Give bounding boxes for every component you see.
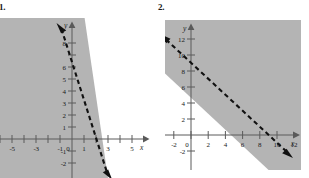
x-tick-label: 8 [258,141,262,149]
y-tick-label: 4 [63,88,67,96]
y-tick-label: 6 [63,64,67,72]
x-tick-label: 6 [241,141,245,149]
y-tick-label: 6 [182,84,186,92]
x-tick-label: 10 [274,141,282,149]
y-tick-label: 1 [63,124,67,132]
graph-2-svg: -2 0 2 4 6 8 10 12 2 4 6 8 10 12 -2 x y [165,20,301,170]
x-tick-label: 5 [130,145,134,153]
x-tick-label: 0 [66,145,70,153]
y-tick-label: 8 [182,68,186,76]
x-tick-label: -3 [33,145,39,153]
graph-1-svg: -5 -3 -1 0 1 3 5 1 2 3 4 5 6 8 -1 -2 x y [0,18,150,178]
y-tick-label: 8 [63,40,67,48]
problem-1-graph: -5 -3 -1 0 1 3 5 1 2 3 4 5 6 8 -1 -2 x y [0,18,150,178]
y-tick-label: -2 [180,148,186,156]
x-tick-label: 4 [224,141,228,149]
problem-2-number: 2. [158,2,164,12]
y-tick-label: 3 [63,100,67,108]
shaded-region-1 [0,18,108,178]
problem-1-number: 1. [0,2,5,12]
x-tick-label: 3 [106,145,110,153]
y-tick-label: 10 [178,52,186,60]
figure-sheet: 1. [0,0,309,178]
problem-1-panel: 1. [0,0,155,178]
y-tick-label: -1 [61,148,67,156]
y-tick-label: 2 [182,116,186,124]
x-axis-label: x [290,139,295,148]
x-tick-label: 2 [206,141,210,149]
y-axis-label: y [63,21,68,30]
y-tick-label: 4 [182,100,186,108]
x-tick-label: 1 [82,145,86,153]
y-axis-label: y [182,24,187,33]
y-tick-label: 2 [63,112,67,120]
x-axis-label: x [139,143,144,152]
y-tick-label: -2 [61,160,67,168]
x-tick-label: -5 [9,145,15,153]
x-tick-label: 0 [185,141,189,149]
problem-2-panel: 2. [155,0,309,178]
y-tick-label: 12 [178,36,186,44]
y-tick-label: 5 [63,76,67,84]
problem-2-graph: -2 0 2 4 6 8 10 12 2 4 6 8 10 12 -2 x y [165,20,301,170]
x-tick-label: -2 [171,141,177,149]
